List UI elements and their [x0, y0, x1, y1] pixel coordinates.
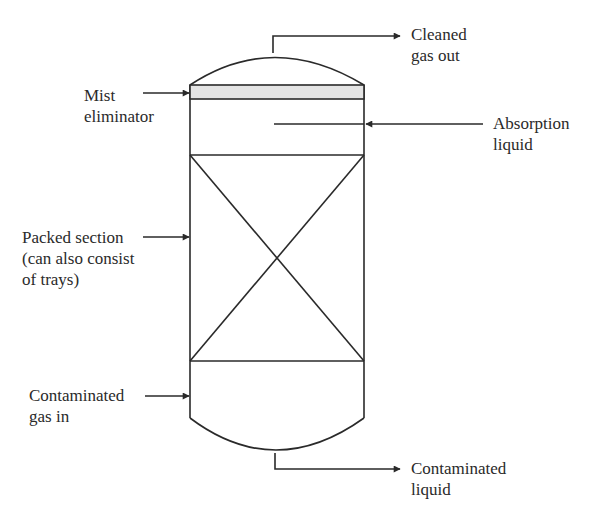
label-packed-section: Packed section (can also consist of tray… [22, 227, 134, 290]
mist-eliminator-band [190, 85, 364, 99]
label-contaminated-gas-in: Contaminated gas in [29, 385, 124, 427]
bottom-dome [190, 418, 364, 450]
label-contaminated-liquid: Contaminated liquid [411, 458, 506, 500]
label-mist-eliminator: Mist eliminator [84, 85, 154, 127]
label-cleaned-gas-out: Cleaned gas out [411, 24, 467, 66]
cleaned-gas-out-arrow [273, 36, 400, 53]
label-absorption-liquid: Absorption liquid [493, 113, 570, 155]
contaminated-liquid-arrow [275, 453, 400, 469]
top-dome [190, 58, 364, 86]
